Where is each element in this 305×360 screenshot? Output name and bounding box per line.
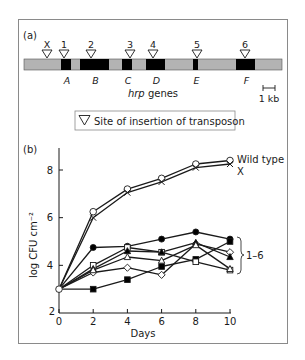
gene-label: C: [125, 75, 132, 86]
triangle-down-icon: [240, 50, 250, 58]
y-tick-label: 6: [47, 212, 53, 223]
insertion-legend: Site of insertion of transposon: [75, 111, 245, 130]
series-line: [59, 232, 230, 289]
insertion-label: 3: [127, 39, 133, 50]
open-diamond-marker-icon: [124, 264, 131, 271]
x-tick-label: 2: [90, 316, 96, 327]
genes-caption: hrp genes: [128, 88, 178, 99]
label-x: X: [237, 166, 244, 177]
figure: (a) X123456 ABCDEF hrp genes 1 kb Site o…: [0, 0, 305, 360]
triangle-down-icon: [86, 50, 96, 58]
label-mutants: 1–6: [246, 250, 264, 261]
insertion-label: 6: [242, 39, 248, 50]
y-tick-label: 8: [47, 165, 53, 176]
open-square-marker-icon: [193, 259, 199, 265]
gene-label: A: [63, 75, 71, 86]
insertion-label: X: [44, 39, 51, 50]
gene-block: [236, 59, 255, 70]
gene-label: E: [193, 75, 199, 86]
triangle-down-icon: [192, 50, 202, 58]
x-tick-label: 0: [56, 316, 62, 327]
panel-a: (a) X123456 ABCDEF hrp genes 1 kb Site o…: [23, 30, 282, 130]
triangle-down-icon: [42, 50, 52, 58]
series-line: [59, 161, 230, 290]
open-circle-marker-icon: [227, 157, 234, 164]
scale-bar-label: 1 kb: [259, 93, 280, 104]
gene-labels: ABCDEF: [63, 75, 250, 86]
series-line: [59, 242, 230, 290]
insertion-label: 2: [88, 39, 94, 50]
filled-square-marker-icon: [159, 264, 165, 270]
filled-circle-marker-icon: [159, 236, 165, 242]
series-lines: [59, 161, 230, 290]
filled-circle-marker-icon: [90, 244, 96, 250]
gene-block: [193, 59, 198, 70]
triangle-down-icon: [148, 50, 158, 58]
filled-square-marker-icon: [125, 277, 131, 283]
x-tick-label: 10: [224, 316, 237, 327]
insertion-label: 4: [150, 39, 156, 50]
scale-bar: 1 kb: [259, 85, 280, 104]
triangle-down-icon: [125, 50, 135, 58]
gene-block: [122, 59, 132, 70]
x-tick-label: 8: [193, 316, 199, 327]
open-circle-marker-icon: [90, 208, 97, 215]
label-wild-type: Wild type: [237, 154, 284, 165]
triangle-down-icon: [59, 50, 69, 58]
series-line: [59, 164, 230, 289]
y-tick-label: 4: [47, 260, 53, 271]
gene-label: D: [153, 75, 160, 86]
gene-block: [146, 59, 165, 70]
series-line: [59, 248, 230, 290]
gene-label: B: [92, 75, 99, 86]
legend-text: Site of insertion of transposon: [94, 116, 245, 127]
open-circle-marker-icon: [158, 175, 165, 182]
open-circle-marker-icon: [56, 286, 63, 293]
open-circle-marker-icon: [124, 186, 131, 193]
filled-circle-marker-icon: [193, 229, 199, 235]
gene-label: F: [244, 75, 250, 86]
x-axis-label: Days: [131, 328, 156, 339]
x-tick-label: 4: [124, 316, 130, 327]
gene-block: [61, 59, 71, 70]
y-ticks: 2468: [47, 165, 63, 318]
open-circle-marker-icon: [193, 161, 200, 168]
insertion-label: 5: [194, 39, 200, 50]
mutants-bracket: [237, 237, 244, 274]
x-ticks: 0246810: [56, 309, 237, 327]
filled-square-marker-icon: [227, 239, 233, 245]
panel-b: (b) 0246810 2468 Days log CFU cm⁻² Wild …: [23, 144, 284, 339]
filled-square-marker-icon: [90, 286, 96, 292]
y-axis-label: log CFU cm⁻²: [28, 212, 39, 278]
insertion-label: 1: [61, 39, 67, 50]
x-tick-label: 6: [158, 316, 164, 327]
gene-block: [80, 59, 109, 70]
panel-b-label: (b): [23, 144, 37, 155]
insertion-markers: X123456: [42, 39, 250, 58]
y-tick-label: 2: [49, 306, 55, 317]
panel-a-label: (a): [23, 30, 37, 41]
